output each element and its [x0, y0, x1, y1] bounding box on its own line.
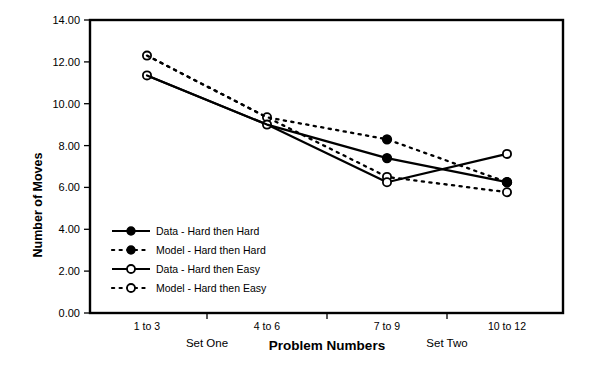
legend-label: Data - Hard then Hard	[156, 225, 259, 237]
legend-marker-filled-circle-icon	[127, 227, 135, 235]
legend-item-model-hard-then-hard[interactable]: Model - Hard then Hard	[112, 244, 266, 256]
y-tick-label-8: 8.00	[59, 140, 80, 152]
data-point-marker	[383, 178, 391, 186]
legend-item-data-hard-then-easy[interactable]: Data - Hard then Easy	[112, 263, 261, 275]
legend-marker-filled-circle-icon	[127, 246, 135, 254]
series-data-hard-then-hard	[147, 75, 511, 186]
y-tick-label-12: 12.00	[52, 56, 80, 68]
y-tick-label-4: 4.00	[59, 223, 80, 235]
data-point-marker	[503, 188, 511, 196]
chart-legend: Data - Hard then Hard Model - Hard then …	[112, 225, 267, 294]
series-data-hard-then-easy	[143, 71, 511, 186]
line-chart: 0.00 2.00 4.00 6.00 8.00 10.00 12.00 14.…	[0, 0, 603, 374]
y-tick-label-0: 0.00	[59, 307, 80, 319]
x-category-label-3: 10 to 12	[488, 320, 526, 332]
legend-item-model-hard-then-easy[interactable]: Model - Hard then Easy	[112, 282, 267, 294]
legend-label: Model - Hard then Easy	[156, 282, 267, 294]
data-point-marker	[503, 150, 511, 158]
series-model-hard-then-easy	[143, 52, 511, 197]
legend-marker-open-circle-icon	[127, 284, 135, 292]
x-axis-category-labels: 1 to 3 4 to 6 7 to 9 10 to 12	[134, 320, 526, 332]
x-category-label-1: 4 to 6	[254, 320, 280, 332]
x-group-label-set-one: Set One	[186, 337, 228, 349]
y-tick-label-14: 14.00	[52, 14, 80, 26]
series-line-model-hard-then-hard	[147, 56, 507, 183]
chart-figure: 0.00 2.00 4.00 6.00 8.00 10.00 12.00 14.…	[0, 0, 603, 374]
x-category-label-2: 7 to 9	[374, 320, 400, 332]
y-tick-label-2: 2.00	[59, 265, 80, 277]
x-category-label-0: 1 to 3	[134, 320, 160, 332]
legend-item-data-hard-then-hard[interactable]: Data - Hard then Hard	[112, 225, 259, 237]
data-point-marker	[503, 178, 512, 187]
x-group-label-set-two: Set Two	[426, 337, 467, 349]
legend-label: Data - Hard then Easy	[156, 263, 261, 275]
data-point-marker	[383, 154, 392, 163]
data-point-marker	[383, 135, 392, 144]
y-axis-title: Number of Moves	[31, 153, 45, 258]
y-axis-tick-labels: 0.00 2.00 4.00 6.00 8.00 10.00 12.00 14.…	[52, 14, 80, 319]
legend-marker-open-circle-icon	[127, 265, 135, 273]
legend-label: Model - Hard then Hard	[156, 244, 266, 256]
x-axis-title: Problem Numbers	[269, 338, 385, 353]
y-tick-label-10: 10.00	[52, 98, 80, 110]
series-model-hard-then-hard	[147, 56, 511, 187]
y-tick-label-6: 6.00	[59, 181, 80, 193]
series-line-data-hard-then-easy	[147, 75, 507, 182]
